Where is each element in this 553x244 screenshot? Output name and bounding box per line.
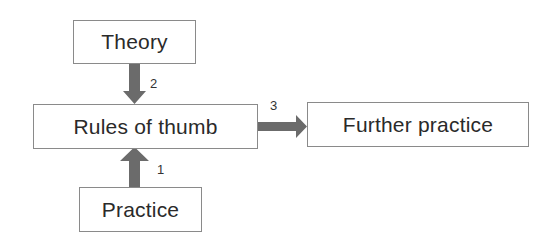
arrow-up-icon — [120, 147, 149, 187]
theory-node: Theory — [73, 20, 196, 64]
arrow-right-icon — [257, 115, 307, 138]
edge-label-2: 2 — [150, 76, 157, 91]
rules-of-thumb-label: Rules of thumb — [73, 115, 217, 139]
practice-node: Practice — [79, 187, 202, 232]
arrow-down-icon — [123, 63, 146, 104]
practice-label: Practice — [102, 198, 179, 222]
edge-label-1: 1 — [157, 162, 164, 177]
further-practice-node: Further practice — [307, 102, 529, 147]
rules-of-thumb-node: Rules of thumb — [33, 104, 258, 149]
further-practice-label: Further practice — [343, 113, 493, 137]
theory-label: Theory — [101, 30, 168, 54]
edge-label-3: 3 — [270, 98, 277, 113]
